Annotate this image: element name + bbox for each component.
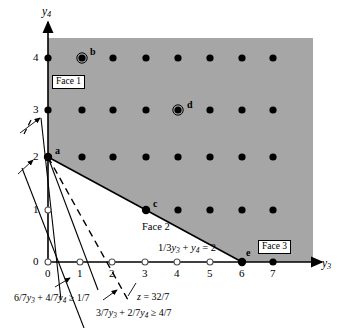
x-tick-3: 3 — [142, 268, 148, 279]
y-tick-0: 0 — [33, 256, 39, 267]
y-axis-label: y4 — [42, 6, 51, 20]
x-tick-1: 1 — [77, 268, 83, 279]
face-3-label: Face 3 — [258, 240, 291, 254]
objective-caption: z = 32/7 — [137, 292, 169, 302]
point-label-e: e — [246, 248, 250, 258]
y-tick-4: 4 — [33, 52, 39, 63]
x-tick-4: 4 — [174, 268, 180, 279]
point-label-c: c — [153, 199, 157, 209]
y-tick-1: 1 — [33, 204, 39, 215]
face-1-label: Face 1 — [52, 75, 85, 89]
x-tick-6: 6 — [239, 268, 245, 279]
lp-feasible-region-figure: y3 y4 0 1 2 3 4 5 6 7 0 1 2 3 4 a b c d … — [0, 0, 347, 328]
cut-1-caption: 6/7y3 + 4/7y4 ≥ 1/7 — [14, 293, 90, 305]
x-tick-5: 5 — [207, 268, 213, 279]
cut-2-caption: 3/7y3 + 2/7y4 ≥ 4/7 — [96, 308, 172, 320]
point-label-a: a — [55, 146, 60, 156]
face-2-equation: 1/3y3 + y4 = 2 — [158, 243, 216, 255]
y-tick-2: 2 — [33, 151, 39, 162]
x-tick-0: 0 — [45, 268, 51, 279]
point-label-d: d — [187, 100, 193, 110]
face-2-label: Face 2 — [142, 222, 170, 233]
point-label-b: b — [90, 47, 96, 57]
x-axis-label: y3 — [322, 258, 331, 272]
x-tick-2: 2 — [109, 268, 115, 279]
y-tick-3: 3 — [33, 104, 39, 115]
x-tick-7: 7 — [270, 268, 276, 279]
cut-pointer-arrows — [20, 118, 40, 133]
